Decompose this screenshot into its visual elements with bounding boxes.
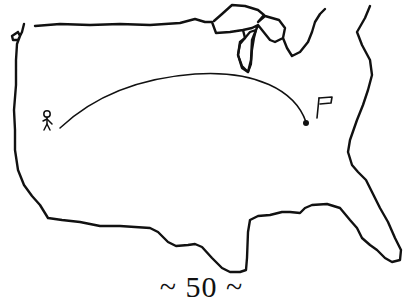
destination-dot [303, 120, 309, 126]
us-outline [12, 5, 401, 272]
page-caption: ~ 50 ~ [0, 270, 403, 304]
stick-figure-icon [43, 111, 52, 130]
map-drawing: ~ 50 ~ [0, 0, 403, 308]
us-map-svg [0, 0, 403, 308]
journey-arc [60, 73, 306, 128]
flag-icon [317, 97, 332, 118]
